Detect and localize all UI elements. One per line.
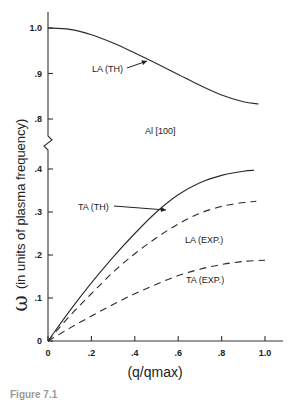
arrowhead-icon bbox=[161, 207, 166, 212]
annotation-label: TA (TH) bbox=[78, 202, 109, 212]
arrowhead-icon bbox=[141, 60, 147, 65]
x-tick-label: .6 bbox=[174, 348, 182, 358]
y-tick-label: .4 bbox=[34, 164, 42, 174]
la-th-curve bbox=[48, 28, 259, 104]
y-tick-label: .8 bbox=[34, 114, 42, 124]
x-tick-label: 1.0 bbox=[259, 348, 272, 358]
ta-exp-curve bbox=[48, 260, 265, 341]
y-axis-label-text: (in units of plasma frequency) bbox=[13, 119, 28, 290]
annotation-label: TA (EXP.) bbox=[186, 275, 224, 285]
omega-symbol: ω bbox=[8, 295, 32, 311]
y-axis-label: ω(in units of plasma frequency) bbox=[8, 119, 32, 312]
annotations: LA (TH)TA (TH)LA (EXP.)TA (EXP.)Al [100] bbox=[78, 60, 224, 285]
ta-th-curve bbox=[48, 170, 254, 341]
y-axis bbox=[44, 12, 52, 341]
x-tick-label: .8 bbox=[218, 348, 226, 358]
y-tick-label: 0 bbox=[37, 336, 42, 346]
x-axis-label: (q/qmax) bbox=[127, 364, 182, 380]
annotation-label: LA (EXP.) bbox=[185, 235, 223, 245]
x-tick-label: .4 bbox=[131, 348, 139, 358]
tick-labels: 0.1.2.3.4.8.91.00.2.4.6.81.0 bbox=[29, 23, 271, 358]
x-tick-label: .2 bbox=[88, 348, 96, 358]
la-exp-curve bbox=[48, 201, 256, 341]
arrow-icon bbox=[114, 206, 166, 210]
annotation-label: LA (TH) bbox=[92, 64, 123, 74]
y-tick-label: 1.0 bbox=[29, 23, 42, 33]
y-tick-label: .9 bbox=[34, 69, 42, 79]
x-tick-label: 0 bbox=[45, 348, 50, 358]
annotation-label: Al [100] bbox=[145, 126, 176, 136]
figure-caption: Figure 7.1 bbox=[10, 389, 57, 400]
y-tick-label: .2 bbox=[34, 250, 42, 260]
axes bbox=[44, 12, 283, 341]
curves bbox=[48, 28, 265, 341]
y-tick-label: .1 bbox=[34, 293, 42, 303]
y-tick-label: .3 bbox=[34, 207, 42, 217]
